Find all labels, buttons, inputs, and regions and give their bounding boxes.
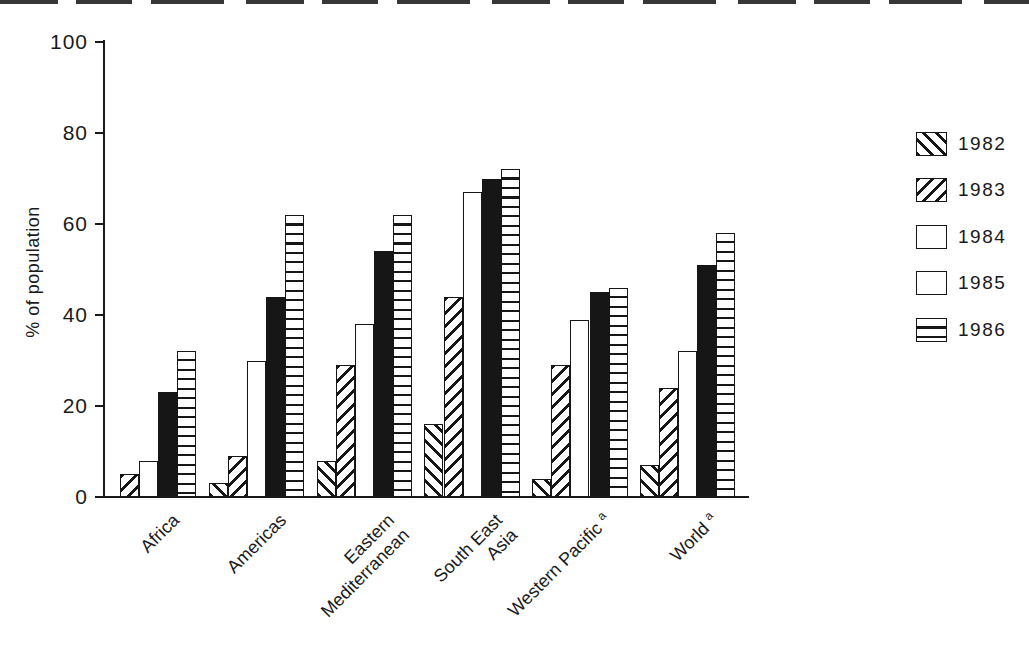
x-label-eastern-mediterranean: EasternMediterranean	[302, 510, 414, 622]
bar-1984-africa	[139, 461, 158, 497]
legend-swatch-1984	[916, 225, 947, 249]
scan-artifact-line	[0, 0, 1029, 4]
bar-1986-world	[716, 233, 735, 497]
x-label-africa: Africa	[136, 510, 184, 558]
x-label-world: World a	[666, 510, 722, 566]
bar-1986-south-east-asia	[501, 169, 520, 497]
y-tick-mark-60	[95, 223, 104, 225]
bar-1982-south-east-asia	[424, 424, 443, 497]
bar-1986-africa	[177, 351, 196, 497]
bar-1983-africa	[120, 474, 139, 497]
bar-1983-western-pacific	[551, 365, 570, 497]
legend-swatch-1982	[916, 132, 947, 156]
y-tick-mark-20	[95, 405, 104, 407]
bar-1984-world	[678, 351, 697, 497]
y-tick-label-40: 40	[36, 303, 88, 327]
bar-1985-south-east-asia	[482, 179, 501, 498]
bar-1982-eastern-mediterranean	[317, 461, 336, 497]
y-axis-line	[103, 40, 105, 498]
bar-1986-americas	[285, 215, 304, 497]
chart: % of population 020406080100 AfricaAmeri…	[0, 0, 1029, 650]
legend-swatch-1983	[916, 178, 947, 202]
bar-1984-eastern-mediterranean	[355, 324, 374, 497]
x-label-western-pacific: Western Pacific a	[504, 510, 615, 621]
y-tick-label-0: 0	[36, 485, 88, 509]
bar-1982-western-pacific	[532, 479, 551, 497]
legend-label-1984: 1984	[958, 225, 1006, 249]
legend-label-1982: 1982	[958, 132, 1006, 156]
y-tick-mark-0	[95, 496, 104, 498]
legend-label-1983: 1983	[958, 178, 1006, 202]
x-label-americas: Americas	[223, 510, 291, 578]
bar-1985-world	[697, 265, 716, 497]
bar-1986-eastern-mediterranean	[393, 215, 412, 497]
bar-1982-world	[640, 465, 659, 497]
bar-1984-americas	[247, 361, 266, 498]
y-tick-mark-100	[95, 41, 104, 43]
bar-1982-americas	[209, 483, 228, 497]
bar-1984-western-pacific	[570, 320, 589, 497]
bar-1983-eastern-mediterranean	[336, 365, 355, 497]
bar-1983-south-east-asia	[444, 297, 463, 497]
x-label-south-east-asia: South EastAsia	[430, 510, 522, 602]
y-tick-label-60: 60	[36, 212, 88, 236]
bar-1984-south-east-asia	[463, 192, 482, 497]
bar-1985-eastern-mediterranean	[374, 251, 393, 497]
y-tick-mark-40	[95, 314, 104, 316]
legend-swatch-1986	[916, 318, 947, 342]
bar-1986-western-pacific	[609, 288, 628, 497]
legend-label-1986: 1986	[958, 318, 1006, 342]
bar-1983-world	[659, 388, 678, 497]
legend-label-1985: 1985	[958, 271, 1006, 295]
y-tick-label-20: 20	[36, 394, 88, 418]
y-tick-mark-80	[95, 132, 104, 134]
bar-1983-americas	[228, 456, 247, 497]
y-tick-label-100: 100	[36, 30, 88, 54]
bar-1985-americas	[266, 297, 285, 497]
bar-1985-western-pacific	[590, 292, 609, 497]
y-tick-label-80: 80	[36, 121, 88, 145]
bar-1985-africa	[158, 392, 177, 497]
legend-swatch-1985	[916, 271, 947, 295]
